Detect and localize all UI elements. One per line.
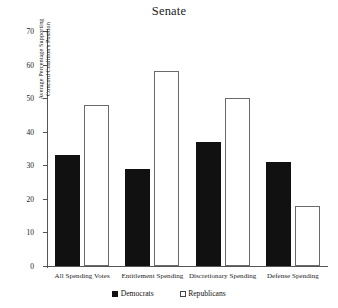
bar-republicans-1 — [154, 71, 179, 266]
bar-democrats-1 — [125, 169, 150, 266]
bar-democrats-2 — [196, 142, 221, 266]
chart-legend: DemocratsRepublicans — [0, 289, 338, 298]
legend-item-republicans[interactable]: Republicans — [180, 289, 226, 298]
open-square-icon — [180, 291, 186, 297]
y-tick-label: 30 — [8, 161, 34, 170]
y-tick-label: 70 — [8, 27, 34, 36]
y-tick-mark — [43, 165, 48, 166]
legend-item-democrats[interactable]: Democrats — [112, 289, 153, 298]
x-axis-line — [47, 266, 328, 267]
bar-republicans-2 — [225, 98, 250, 266]
y-tick-label: 0 — [8, 262, 34, 271]
bar-democrats-3 — [266, 162, 291, 266]
y-axis-title: Average Percentage Supporting Concord Co… — [37, 0, 59, 139]
y-tick-label: 10 — [8, 228, 34, 237]
y-tick-mark — [43, 266, 48, 267]
senate-bar-chart: Senate 010203040506070 Average Percentag… — [0, 0, 338, 308]
category-label: Entitlement Spending — [117, 272, 187, 280]
y-tick-mark — [43, 232, 48, 233]
legend-label: Republicans — [188, 289, 226, 298]
bar-republicans-3 — [295, 206, 320, 266]
y-tick-label: 60 — [8, 61, 34, 70]
legend-label: Democrats — [121, 289, 154, 298]
category-label: Defense Spending — [258, 272, 328, 280]
y-axis-title-line-2: Concord Coalition's Position — [44, 0, 51, 139]
bar-republicans-0 — [84, 105, 109, 266]
y-tick-mark — [43, 199, 48, 200]
filled-square-icon — [112, 291, 118, 297]
y-axis-title-line-1: Average Percentage Supporting — [37, 0, 44, 139]
y-tick-label: 20 — [8, 195, 34, 204]
y-tick-label: 40 — [8, 128, 34, 137]
category-label: All Spending Votes — [47, 272, 117, 280]
bar-democrats-0 — [55, 155, 80, 266]
y-tick-label: 50 — [8, 94, 34, 103]
category-label: Discretionary Spending — [188, 272, 258, 280]
